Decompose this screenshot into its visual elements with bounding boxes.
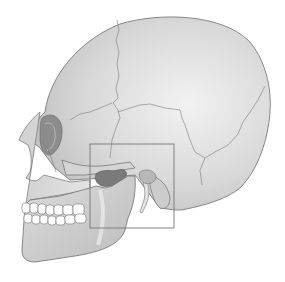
skull-drawing: [0, 0, 285, 282]
styloid-process: [140, 180, 149, 213]
skull-illustration: [0, 0, 285, 282]
